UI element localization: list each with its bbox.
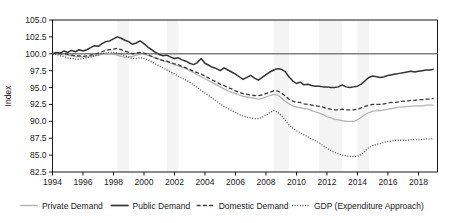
y-tick-label: 87.5 [30, 133, 47, 143]
y-tick-label: 90.0 [30, 116, 47, 126]
series-line-public-demand [53, 37, 434, 88]
x-tick-label: 2014 [348, 177, 367, 187]
y-tick-label: 82.5 [30, 167, 47, 177]
y-tick-label: 100.0 [25, 49, 47, 59]
y-tick-label: 105.0 [25, 15, 47, 25]
legend-label-domestic-demand: Domestic Demand [219, 201, 289, 211]
plot-frame [53, 20, 438, 172]
x-tick-label: 2000 [135, 177, 154, 187]
plot-border [53, 20, 438, 172]
legend-label-private-demand: Private Demand [42, 201, 103, 211]
legend-label-public-demand: Public Demand [133, 201, 191, 211]
x-tick-label: 2010 [287, 177, 306, 187]
y-axis-ticks: 105.0102.5100.097.595.092.590.087.585.08… [25, 15, 52, 177]
x-tick-label: 1998 [104, 177, 123, 187]
x-tick-label: 2008 [257, 177, 276, 187]
x-tick-label: 1996 [74, 177, 93, 187]
series-line-private-demand [53, 53, 434, 121]
x-tick-label: 2004 [196, 177, 215, 187]
data-series-lines [53, 37, 434, 157]
x-tick-label: 2018 [409, 177, 428, 187]
line-chart: 105.0102.5100.097.595.092.590.087.585.08… [0, 0, 458, 223]
x-axis-ticks: 1994199619982000200220042006200820102012… [43, 172, 428, 187]
recession-band [357, 20, 368, 172]
recession-band [274, 20, 289, 172]
y-tick-label: 85.0 [30, 150, 47, 160]
y-tick-label: 95.0 [30, 83, 47, 93]
chart-figure: 105.0102.5100.097.595.092.590.087.585.08… [0, 0, 458, 223]
y-tick-label: 97.5 [30, 66, 47, 76]
chart-legend: Private DemandPublic DemandDomestic Dema… [20, 201, 424, 211]
legend-label-gdp-expenditure-approach: GDP (Expenditure Approach) [314, 201, 424, 211]
x-tick-label: 2006 [226, 177, 245, 187]
y-tick-label: 92.5 [30, 99, 47, 109]
x-tick-label: 2016 [378, 177, 397, 187]
recession-band [167, 20, 178, 172]
recession-band [117, 20, 128, 172]
y-axis-label: Index [3, 85, 13, 107]
x-tick-label: 1994 [43, 177, 62, 187]
y-tick-label: 102.5 [25, 32, 47, 42]
x-tick-label: 2002 [165, 177, 184, 187]
x-tick-label: 2012 [317, 177, 336, 187]
y-axis-title: Index [3, 85, 13, 107]
recession-band [319, 20, 342, 172]
